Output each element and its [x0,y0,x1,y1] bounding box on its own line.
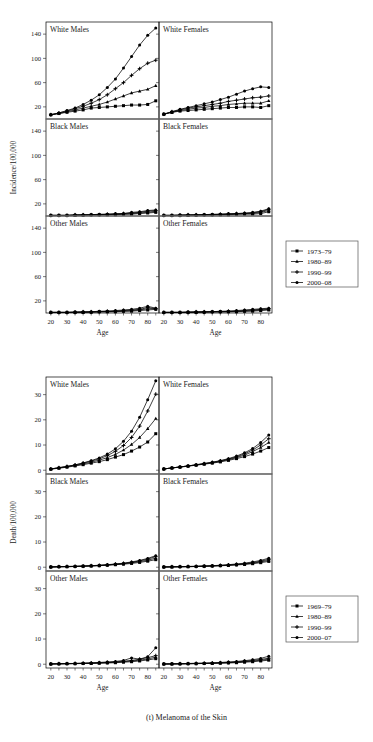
data-marker-square [251,453,254,456]
death-panel-black-males: Black Males0102030 [34,474,159,571]
incidence-chart-block: White Males2060100140White FemalesBlack … [0,0,373,355]
data-marker-circle [114,660,117,663]
data-marker-circle [90,459,93,462]
data-marker-circle [49,311,52,314]
incidence-y-tick-label: 140 [31,127,42,134]
death-x-tick-label: 60 [225,673,232,680]
data-marker-circle [227,457,230,460]
data-marker-circle [90,564,93,567]
data-marker-circle [235,562,238,565]
incidence-panel-frame [46,119,159,216]
death-x-tick-label: 50 [96,673,103,680]
data-marker-circle [267,433,270,436]
data-marker-circle [138,210,141,213]
data-marker-circle [243,659,246,662]
data-marker-circle [90,661,93,664]
incidence-legend-label: 1980–89 [307,258,332,266]
melanoma-figure: White Males2060100140White FemalesBlack … [0,0,373,742]
data-marker-circle [203,564,206,567]
data-marker-circle [243,562,246,565]
data-marker-circle [187,565,190,568]
data-marker-square [130,104,133,107]
incidence-panel-frame [46,216,159,313]
data-marker-circle [187,662,190,665]
figure-caption-wrap: (t) Melanoma of the Skin [0,706,373,724]
data-marker-circle [243,451,246,454]
data-marker-circle [122,440,125,443]
death-y-tick-label: 30 [34,391,41,398]
data-marker-triangle [122,448,125,451]
data-marker-circle [106,86,109,89]
data-marker-circle [130,211,133,214]
data-marker-circle [98,310,101,313]
data-marker-plus [267,94,271,98]
data-marker-circle [114,77,117,80]
data-marker-circle [251,447,254,450]
death-legend: 1969–791980–891990–992000–07 [286,596,358,642]
data-marker-circle [74,107,77,110]
data-marker-circle [154,208,157,211]
data-marker-circle [122,562,125,565]
data-marker-circle [227,212,230,215]
data-marker-circle [235,93,238,96]
data-marker-plus [235,98,239,102]
data-marker-circle [114,212,117,215]
data-marker-circle [178,465,181,468]
data-marker-circle [74,565,77,568]
data-marker-square [219,107,222,110]
data-marker-square [114,456,117,459]
data-marker-circle [227,310,230,313]
data-marker-circle [74,463,77,466]
data-marker-circle [203,462,206,465]
incidence-panel-other-females: Other Females20304050607080Age [156,216,272,337]
incidence-x-tick-label: 30 [64,318,71,325]
incidence-y-tick-label: 100 [31,249,42,256]
data-marker-circle [146,34,149,37]
data-marker-triangle [154,84,157,87]
incidence-panel-title: Other Males [50,219,88,228]
death-y-tick-label: 30 [34,488,41,495]
data-marker-circle [122,308,125,311]
data-marker-square [154,432,157,435]
data-marker-circle [162,113,165,116]
data-marker-circle [243,90,246,93]
data-marker-circle [130,308,133,311]
data-marker-square [227,106,230,109]
data-marker-square [114,105,117,108]
data-marker-circle [170,466,173,469]
data-marker-circle [235,660,238,663]
incidence-y-tick-label: 20 [34,297,41,304]
data-marker-circle [82,310,85,313]
data-marker-circle [296,636,299,639]
data-marker-square [122,453,125,456]
incidence-panel-frame [46,22,159,119]
incidence-legend-label: 1990–99 [307,269,332,277]
data-marker-circle [65,109,68,112]
data-marker-square [98,106,101,109]
incidence-y-tick-label: 100 [31,152,42,159]
data-marker-circle [57,111,60,114]
figure-caption: (t) Melanoma of the Skin [146,713,227,722]
data-marker-circle [235,309,238,312]
data-marker-circle [259,657,262,660]
data-marker-square [211,107,214,110]
death-panel-title: White Females [163,380,209,389]
death-x-tick-label: 40 [80,673,87,680]
data-marker-circle [227,660,230,663]
death-y-tick-label: 10 [34,635,41,642]
data-marker-circle [130,55,133,58]
data-marker-triangle [154,417,157,420]
death-x-tick-label: 30 [177,673,184,680]
data-marker-circle [267,557,270,560]
data-marker-circle [138,416,141,419]
data-marker-square [259,450,262,453]
data-marker-circle [235,455,238,458]
data-marker-square [138,446,141,449]
death-y-tick-label: 20 [34,610,41,617]
data-marker-plus [243,97,247,101]
data-marker-circle [106,660,109,663]
data-marker-circle [138,658,141,661]
data-marker-circle [122,659,125,662]
data-marker-square [106,105,109,108]
data-marker-circle [219,213,222,216]
